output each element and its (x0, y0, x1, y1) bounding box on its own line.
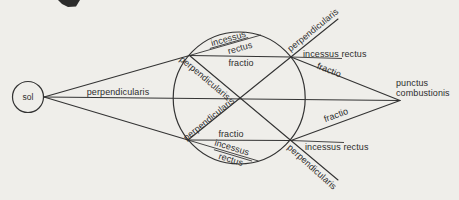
label-bottom-chord-fractio: fractio (218, 129, 243, 139)
burning-sphere-ray-diagram: sol perpendicularis perpendicularis ince… (0, 0, 459, 200)
label-top-exit-fractio: fractio (315, 61, 342, 79)
ray-sun-to-bottom-entry (44, 97, 188, 140)
scan-smudge (58, 0, 80, 7)
label-top-exit-incessus-rectus: incessus rectus (303, 49, 367, 59)
label-axis-perpendicularis: perpendicularis (87, 87, 150, 97)
label-bottom-exit-incessus-rectus: incessus rectus (305, 142, 369, 152)
label-focus-line1: punctus (396, 78, 429, 88)
sun-label: sol (22, 92, 33, 102)
ray-bottom-refracted-chord (188, 140, 291, 141)
ray-top-exit-refracted (291, 57, 400, 101)
ray-top-refracted-chord (190, 56, 292, 58)
label-top-chord-fractio: fractio (228, 58, 253, 68)
label-top-entry-normal: perpendicularis (178, 54, 233, 102)
label-top-exit-normal: perpendicularis (286, 6, 341, 53)
label-focus-line2: combustionis (396, 88, 450, 98)
diagram-canvas: sol perpendicularis perpendicularis ince… (0, 0, 459, 200)
label-bottom-exit-fractio: fractio (322, 106, 349, 124)
